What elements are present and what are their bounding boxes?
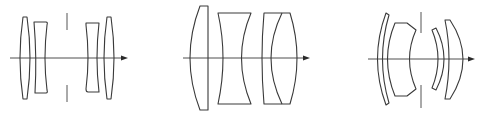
- axis-arrow-icon: [468, 57, 475, 62]
- lens-diagram-2: [183, 6, 310, 110]
- lens-element-biconcave: [34, 22, 47, 93]
- lens-diagram-figure: [0, 0, 485, 117]
- lens-element-biconcave: [86, 23, 99, 92]
- lens-element-meniscus: [445, 20, 463, 99]
- axis-arrow-icon: [121, 56, 128, 61]
- lens-element-thick-meniscus: [388, 23, 417, 96]
- lens-diagram-1: [10, 13, 128, 102]
- lens-element-biconcave: [218, 13, 251, 104]
- lens-diagram-3: [368, 12, 475, 108]
- cemented-interface: [271, 13, 282, 104]
- axis-arrow-icon: [303, 56, 310, 61]
- lens-element-cemented-doublet: [262, 13, 297, 104]
